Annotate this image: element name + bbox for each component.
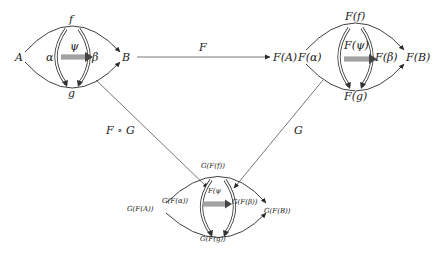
diagram-canvas: A B f g α β ψ F F(A) F(B) F(f) (0, 0, 445, 257)
two-cell-GFalpha-label: G(F(α)) (162, 197, 188, 205)
morphism-GFg-label: G(F(g)) (200, 235, 226, 243)
morphism-GFf-label: G(F(f)) (201, 162, 225, 170)
functor-F-label: F (198, 41, 207, 54)
top-right-diagram: F(A) F(B) F(f) F(g) F(α) F(β) F(ψ) (272, 10, 430, 103)
two-cell-Falpha-label: F(α) (297, 51, 322, 64)
two-cell-Fbeta-label: F(β) (374, 51, 398, 64)
morphism-g-label: g (68, 87, 75, 100)
two-cell-GFbeta-label: G(F(β)) (232, 198, 258, 206)
two-cell-GFbeta-arrow (223, 180, 235, 237)
morphism-g-arrow (25, 62, 120, 88)
object-B-label: B (121, 51, 130, 64)
functor-G-label: G (294, 124, 303, 137)
functor-G-arrow (234, 80, 323, 188)
morphism-Fg-arrow (306, 64, 404, 91)
object-GFA-label: G(F(A)) (127, 205, 154, 213)
top-left-diagram: A B f g α β ψ (14, 13, 130, 100)
object-FB-label: F(B) (405, 51, 430, 64)
three-cell-Fpsi-label: F(ψ) (343, 39, 369, 52)
bottom-diagram: G(F(A)) G(F(B)) G(F(f)) G(F(g)) G(F(α)) … (127, 162, 291, 243)
three-cell-psi-label: ψ (70, 40, 79, 53)
object-FA-label: F(A) (272, 51, 297, 64)
object-A-label: A (14, 51, 23, 64)
three-cell-GFpsi-label: F(ψ (207, 187, 222, 195)
morphism-GFg-arrow (166, 213, 266, 238)
morphism-Fg-label: F(g) (343, 90, 367, 103)
functor-FoG-label: F ∘ G (105, 124, 135, 137)
two-cell-beta-label: β (91, 51, 98, 64)
object-GFB-label: G(F(B)) (264, 207, 291, 215)
three-cell-GFpsi-arrow (203, 200, 232, 209)
morphism-Ff-label: F(f) (344, 10, 365, 23)
morphism-f-label: f (68, 13, 75, 26)
two-cell-alpha-label: α (46, 51, 54, 64)
